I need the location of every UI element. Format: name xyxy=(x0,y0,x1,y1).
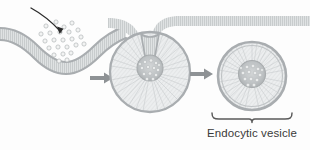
stage-3-free-vesicle xyxy=(218,42,286,110)
cargo-particle xyxy=(74,43,78,47)
endocytic-vesicle-label: Endocytic vesicle xyxy=(207,127,297,139)
diagram-canvas: Endocytic vesicle xyxy=(0,0,310,150)
cargo-particle xyxy=(56,45,60,49)
cargo-particle xyxy=(57,59,61,63)
cargo-particle xyxy=(67,30,71,34)
cargo-particle xyxy=(52,38,56,42)
endocytosis-diagram: Endocytic vesicle xyxy=(0,0,310,150)
cargo-particle xyxy=(82,42,86,46)
cargo-particle xyxy=(65,45,69,49)
cargo-particle xyxy=(65,58,69,62)
cargo-particle xyxy=(70,21,74,25)
cargo-particle xyxy=(48,31,52,35)
cargo-particle xyxy=(47,46,51,50)
cargo-particle xyxy=(69,51,73,55)
cargo-particle xyxy=(39,32,43,36)
cargo-particle xyxy=(70,37,74,41)
cargo-particle xyxy=(61,38,65,42)
cargo-particle xyxy=(61,52,65,56)
cargo-particle xyxy=(76,28,80,32)
cargo-particle xyxy=(52,53,56,57)
cargo-particle xyxy=(43,39,47,43)
cargo-particle xyxy=(44,24,48,28)
cargo-particle xyxy=(79,35,83,39)
cargo-particle xyxy=(54,20,58,24)
